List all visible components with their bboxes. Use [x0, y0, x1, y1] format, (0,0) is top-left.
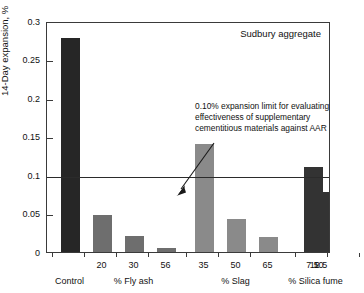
y-tick-label-5: 0.05	[0, 210, 40, 219]
x-tick-0	[52, 253, 53, 257]
annotation-arrow-icon	[172, 141, 216, 199]
bar-control	[61, 38, 80, 252]
plot-area: Sudbury aggregate 0.10% expansion limit …	[46, 22, 330, 253]
annotation-line-3: cementitious materials against AAR	[195, 123, 364, 134]
x-tick-3	[148, 253, 149, 257]
x-tick-8	[327, 253, 328, 257]
bar-slag-65	[259, 237, 278, 252]
bar-flyash-56	[157, 248, 176, 252]
y-tick-label-2: 0.2	[0, 95, 40, 104]
x-value-label-flyash-56: 56	[146, 261, 186, 270]
x-tick-1	[84, 253, 85, 257]
bar-flyash-30	[125, 236, 144, 252]
y-tick-label-6: 0	[0, 249, 40, 258]
annotation-line-2: effectiveness of supplementary	[195, 112, 364, 123]
x-tick-7	[295, 253, 296, 257]
y-tick-label-0: 0.3	[0, 18, 40, 27]
x-tick-9	[359, 253, 360, 257]
x-value-label-slag-65: 65	[248, 261, 288, 270]
x-group-label-flyash: % Fly ash	[94, 277, 174, 286]
x-group-label-silicafume: % Silica fume	[266, 277, 364, 286]
y-tick-mark-0.05	[47, 215, 53, 216]
y-axis-title: 14-Day expansion, %	[0, 0, 10, 96]
y-tick-label-1: 0.25	[0, 56, 40, 65]
limit-annotation: 0.10% expansion limit for evaluating eff…	[195, 101, 364, 135]
y-tick-label-3: 0.15	[0, 133, 40, 142]
x-group-label-control: Control	[40, 277, 100, 286]
y-tick-mark-0.20	[47, 100, 53, 101]
annotation-line-1: 0.10% expansion limit for evaluating	[195, 101, 364, 112]
bar-silicafume-12.5	[310, 212, 329, 252]
bar-flyash-20	[93, 215, 112, 252]
x-group-label-slag: % Slag	[196, 277, 276, 286]
bar-slag-50	[227, 219, 246, 252]
x-tick-4	[186, 253, 187, 257]
y-tick-mark-0.15	[47, 138, 53, 139]
x-tick-5	[218, 253, 219, 257]
aggregate-label: Sudbury aggregate	[240, 28, 321, 39]
x-value-label-sf-12.5: 12.5	[299, 261, 339, 270]
x-tick-2	[116, 253, 117, 257]
x-tick-6	[250, 253, 251, 257]
y-tick-mark-0.25	[47, 61, 53, 62]
y-tick-label-4: 0.1	[0, 172, 40, 181]
